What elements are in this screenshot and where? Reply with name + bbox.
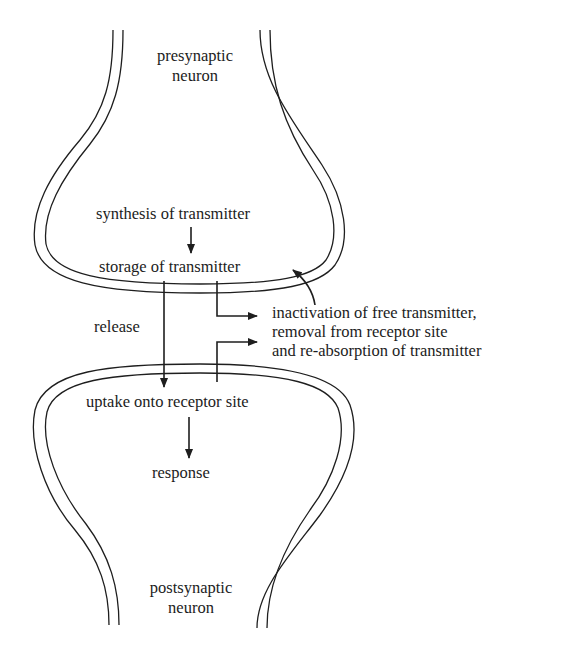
inactivation-line-1: inactivation of free transmitter,	[272, 303, 481, 322]
postsynaptic-line-1: postsynaptic	[135, 578, 247, 598]
uptake-label: uptake onto receptor site	[86, 392, 249, 412]
postsynaptic-neuron-label: postsynaptic neuron	[135, 578, 247, 618]
postsynaptic-line-2: neuron	[135, 598, 247, 618]
response-label: response	[152, 463, 210, 483]
inactivation-label: inactivation of free transmitter, remova…	[272, 303, 481, 360]
presynaptic-neuron-label: presynaptic neuron	[140, 46, 250, 86]
inactivation-line-3: and re-absorption of transmitter	[272, 341, 481, 360]
synapse-diagram: presynaptic neuron synthesis of transmit…	[0, 0, 561, 649]
presynaptic-line-2: neuron	[140, 66, 250, 86]
presynaptic-line-1: presynaptic	[140, 46, 250, 66]
synthesis-label: synthesis of transmitter	[96, 204, 250, 224]
storage-label: storage of transmitter	[99, 257, 240, 277]
inactivation-line-2: removal from receptor site	[272, 322, 481, 341]
release-label: release	[94, 317, 140, 337]
